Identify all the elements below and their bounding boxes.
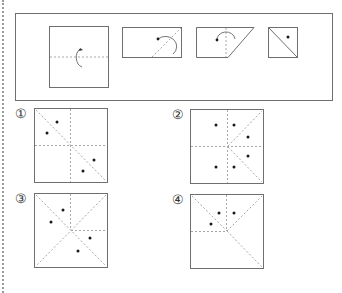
option-4-label[interactable]: ④	[172, 193, 184, 206]
punch-dot	[287, 36, 290, 39]
option-3-figure[interactable]	[35, 194, 108, 268]
option-2-figure[interactable]	[191, 110, 264, 184]
option-3-label[interactable]: ③	[15, 192, 27, 205]
option-2-label[interactable]: ②	[172, 108, 184, 121]
fold-step-1	[50, 27, 109, 88]
curved-arrow-icon	[76, 49, 82, 67]
option-1-label[interactable]: ①	[15, 107, 27, 120]
fold-step-3	[197, 28, 255, 58]
fold-step-4	[269, 28, 298, 58]
punch-dot	[157, 38, 160, 41]
fold-step-2	[123, 28, 182, 58]
arrow-head-icon	[79, 48, 83, 51]
curved-arrow-icon	[158, 36, 177, 54]
option-1-figure[interactable]	[35, 109, 108, 183]
punch-dot	[216, 39, 219, 42]
option-4-figure[interactable]	[191, 195, 264, 269]
diagram-canvas	[0, 0, 342, 293]
